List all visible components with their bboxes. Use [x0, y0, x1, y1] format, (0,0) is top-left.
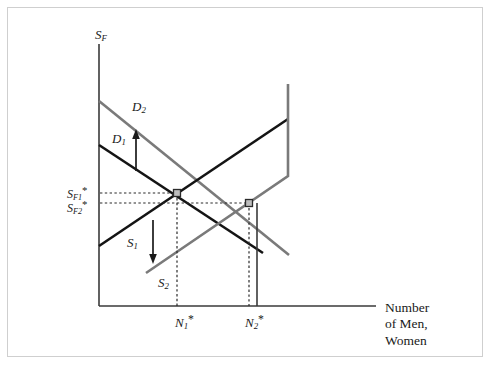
quantity-tick-label-2: N2*	[245, 316, 264, 330]
guide-lines	[100, 193, 249, 306]
curve-label-supply-1: S1	[127, 236, 138, 249]
curve-label-demand-2: D2	[132, 100, 146, 113]
figure-root: SF D2 D1 S1 S2 SF1* SF2* N1* N2* Number …	[0, 0, 491, 365]
supply-curve-2	[146, 84, 288, 273]
figure-frame: SF D2 D1 S1 S2 SF1* SF2* N1* N2* Number …	[7, 7, 483, 357]
equilibrium-point-2	[246, 200, 253, 207]
supply-curve-1	[99, 119, 288, 246]
price-tick-label-2: SF2*	[67, 202, 87, 214]
supply-shift-arrow	[149, 220, 157, 264]
quantity-tick-label-1: N1*	[175, 316, 194, 330]
x-axis-label: Number of Men, Women	[385, 300, 429, 349]
x-axis-label-line-2: of Men,	[385, 316, 429, 332]
demand-shift-arrow	[132, 129, 140, 171]
demand-curve-2	[99, 101, 289, 255]
equilibrium-point-1	[174, 190, 181, 197]
y-axis-label: SF	[95, 28, 107, 41]
demand-curve-1	[99, 145, 263, 253]
x-axis-label-line-1: Number	[385, 300, 429, 316]
axis-group	[99, 44, 376, 306]
x-axis-label-line-3: Women	[385, 333, 429, 349]
curve-label-demand-1: D1	[112, 132, 126, 145]
curve-label-supply-2: S2	[158, 276, 169, 289]
